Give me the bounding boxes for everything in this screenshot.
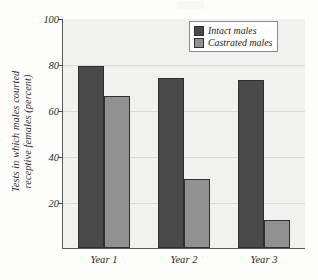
dark-gray-swatch-icon	[194, 26, 204, 36]
bar-group-year-3	[238, 80, 290, 248]
x-tick-label-year-3: Year 3	[229, 254, 299, 265]
light-gray-swatch-icon	[194, 38, 204, 48]
scan-artifact	[178, 1, 204, 9]
bar-group-year-1	[78, 66, 130, 248]
bar-group-year-2	[158, 78, 210, 248]
bar-year-2-castrated-males	[184, 179, 210, 248]
legend-item-castrated-males: Castrated males	[194, 37, 272, 48]
legend-label-castrated-males: Castrated males	[208, 37, 272, 48]
y-tick-label-60: 60	[33, 106, 59, 117]
y-tick-mark-20	[58, 203, 63, 204]
y-tick-label-100: 100	[33, 14, 59, 25]
legend-item-intact-males: Intact males	[194, 25, 272, 36]
y-tick-mark-40	[58, 157, 63, 158]
y-axis-tick-labels: 100 80 60 40 20	[30, 0, 59, 280]
legend-label-intact-males: Intact males	[208, 25, 257, 36]
plot-area: Intact males Castrated males	[62, 19, 305, 249]
bar-chart-figure: Tests in which males courted receptive f…	[0, 0, 318, 280]
bar-year-3-intact-males	[238, 80, 264, 248]
y-tick-mark-100	[58, 19, 63, 20]
x-tick-label-year-1: Year 1	[69, 254, 139, 265]
y-tick-mark-80	[58, 65, 63, 66]
y-tick-mark-60	[58, 111, 63, 112]
bar-year-3-castrated-males	[264, 220, 290, 248]
bar-year-2-intact-males	[158, 78, 184, 248]
chart-legend: Intact males Castrated males	[189, 21, 278, 52]
bar-year-1-intact-males	[78, 66, 104, 248]
bar-year-1-castrated-males	[104, 96, 130, 248]
x-tick-label-year-2: Year 2	[149, 254, 219, 265]
y-tick-label-20: 20	[33, 198, 59, 209]
y-tick-label-40: 40	[33, 152, 59, 163]
y-axis-title-line-1: Tests in which males courted	[11, 70, 23, 191]
y-tick-label-80: 80	[33, 60, 59, 71]
